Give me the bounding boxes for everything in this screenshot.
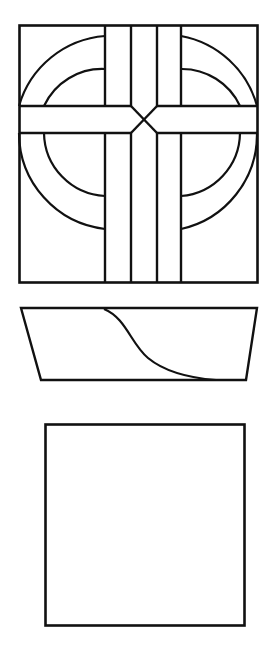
square-outline	[46, 425, 245, 626]
arc-outer-top-right	[181, 36, 257, 106]
figure-trapezoid-with-s-curve	[21, 308, 257, 380]
arc-inner-bottom-right	[181, 133, 240, 196]
trapezoid-outline	[21, 308, 257, 380]
panel-outline	[20, 26, 258, 283]
figure-sheet-svg	[0, 0, 277, 653]
figure-cross-and-circle-window	[19, 25, 258, 283]
arc-outer-bottom-left	[19, 133, 105, 229]
figure-empty-square	[46, 425, 245, 626]
figure-sheet-canvas	[0, 0, 277, 653]
arc-inner-top-right	[181, 69, 240, 106]
arc-inner-bottom-left	[44, 133, 105, 196]
arc-outer-top-left	[19, 36, 105, 106]
arc-inner-top-left	[44, 69, 105, 106]
s-curve	[104, 309, 216, 380]
